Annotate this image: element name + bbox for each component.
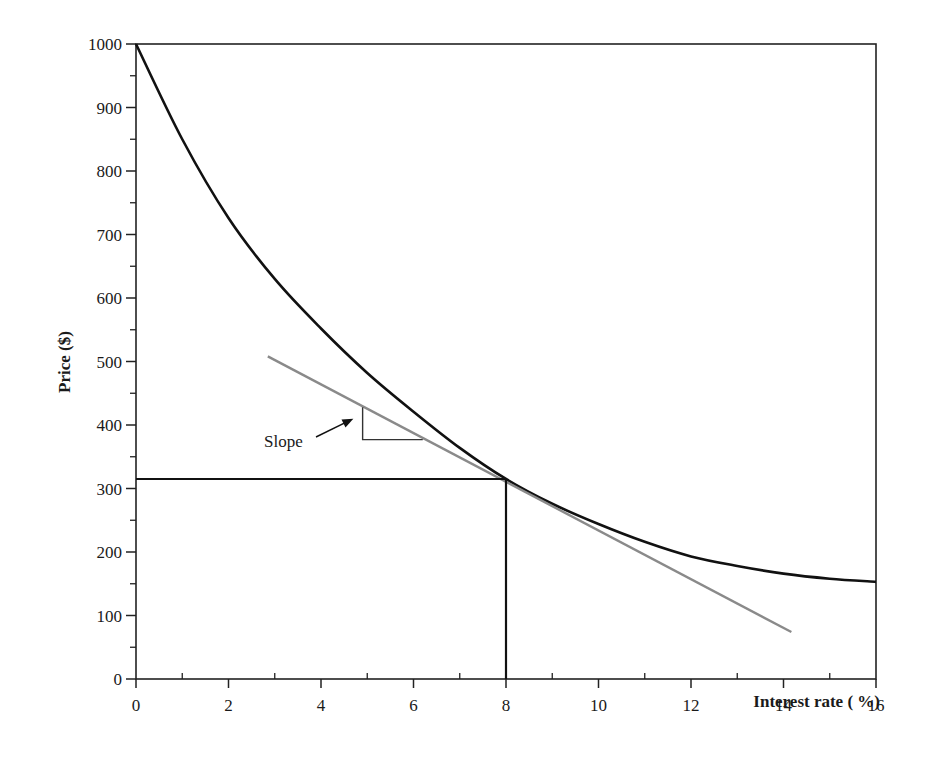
y-tick-label: 500 xyxy=(97,353,123,372)
tangent-line xyxy=(268,356,792,632)
x-tick-label: 6 xyxy=(409,696,418,715)
y-tick-label: 700 xyxy=(97,226,123,245)
chart-canvas: 0246810121416 01002003004005006007008009… xyxy=(0,0,929,776)
y-axis: 01002003004005006007008009001000 xyxy=(88,35,136,689)
y-tick-label: 800 xyxy=(97,162,123,181)
y-tick-label: 1000 xyxy=(88,35,122,54)
y-tick-label: 300 xyxy=(97,480,123,499)
x-tick-label: 2 xyxy=(224,696,233,715)
x-axis-title: Interest rate ( %) xyxy=(753,692,880,711)
x-tick-label: 10 xyxy=(590,696,607,715)
bond-price-chart: 0246810121416 01002003004005006007008009… xyxy=(0,0,929,776)
y-tick-label: 900 xyxy=(97,99,123,118)
y-tick-label: 0 xyxy=(114,670,123,689)
y-axis-title: Price ($) xyxy=(55,331,74,393)
x-tick-label: 8 xyxy=(502,696,511,715)
x-tick-label: 12 xyxy=(683,696,700,715)
slope-label: Slope xyxy=(264,432,303,451)
y-tick-label: 400 xyxy=(97,416,123,435)
y-tick-label: 200 xyxy=(97,543,123,562)
annotations: Slope xyxy=(264,407,423,451)
x-tick-label: 0 xyxy=(132,696,141,715)
y-tick-label: 600 xyxy=(97,289,123,308)
reference-lines xyxy=(136,479,506,679)
y-tick-label: 100 xyxy=(97,607,123,626)
x-tick-label: 4 xyxy=(317,696,326,715)
